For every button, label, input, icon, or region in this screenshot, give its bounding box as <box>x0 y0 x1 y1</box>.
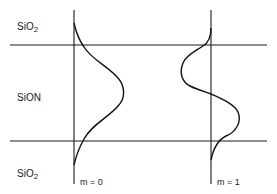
m0-mode-profile-curve <box>74 23 124 165</box>
core-label: SiON <box>17 92 41 103</box>
waveguide-mode-diagram: SiO2 SiON SiO2 m = 0 m = 1 <box>0 0 277 194</box>
m0-mode-label: m = 0 <box>80 177 103 187</box>
m1-mode-profile-curve <box>181 28 239 160</box>
m1-mode-label: m = 1 <box>217 177 240 187</box>
bottom-cladding-label: SiO2 <box>17 168 39 181</box>
top-cladding-label: SiO2 <box>17 21 39 34</box>
